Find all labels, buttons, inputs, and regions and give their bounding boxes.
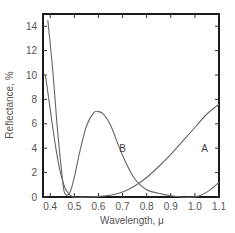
plot-border bbox=[43, 14, 219, 197]
x-tick-label: 0.9 bbox=[164, 201, 178, 212]
y-tick-label: 10 bbox=[26, 70, 38, 81]
x-tick-label: 0.5 bbox=[67, 201, 81, 212]
x-tick-label: 1.0 bbox=[188, 201, 202, 212]
y-tick-label: 6 bbox=[31, 118, 37, 129]
x-axis-label: Wavelength, μ bbox=[100, 215, 164, 226]
x-tick-label: 0.4 bbox=[43, 201, 57, 212]
y-tick-label: 2 bbox=[31, 167, 37, 178]
curve-label-b: B bbox=[119, 143, 126, 154]
y-tick-label: 14 bbox=[26, 21, 38, 32]
x-tick-label: 0.7 bbox=[116, 201, 130, 212]
x-tick-label: 0.8 bbox=[140, 201, 154, 212]
y-tick-label: 12 bbox=[26, 45, 38, 56]
data-curves bbox=[45, 20, 219, 197]
curve-label-a: A bbox=[201, 143, 208, 154]
curve-b bbox=[48, 20, 219, 197]
curve-a bbox=[45, 75, 219, 197]
reflectance-chart: 0.40.50.60.70.80.91.01.102468101214 AB W… bbox=[0, 0, 235, 233]
x-tick-label: 0.6 bbox=[91, 201, 105, 212]
plot-frame bbox=[43, 14, 219, 197]
y-tick-label: 4 bbox=[31, 143, 37, 154]
y-tick-label: 0 bbox=[31, 192, 37, 203]
y-tick-label: 8 bbox=[31, 94, 37, 105]
y-axis-label: Reflectance, % bbox=[4, 71, 15, 138]
curve-labels: AB bbox=[119, 143, 208, 154]
x-tick-label: 1.1 bbox=[212, 201, 226, 212]
